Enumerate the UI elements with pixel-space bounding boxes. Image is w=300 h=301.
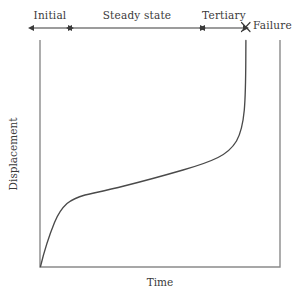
plot-frame [40,40,280,267]
creep-curve-figure: Initial Steady state Tertiary Failure Ti… [0,0,300,301]
creep-curve-line [41,41,246,267]
stage-label-failure: Failure [253,19,292,31]
x-axis-title: Time [147,276,174,288]
stage-label-steady-state: Steady state [103,9,172,21]
stage-label-initial: Initial [34,9,67,21]
failure-x-icon [242,23,251,32]
y-axis-title: Displacement [7,118,19,191]
stage-label-tertiary: Tertiary [202,9,246,21]
chart-canvas [0,0,300,301]
